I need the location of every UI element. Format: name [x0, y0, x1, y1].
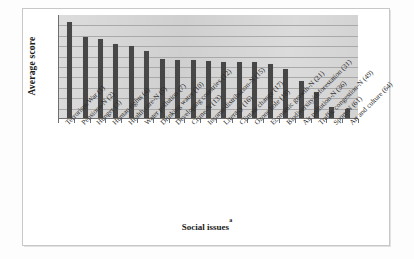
bar-slot [62, 15, 77, 118]
bar [67, 22, 72, 118]
x-axis-title: Social issuesa [0, 221, 414, 232]
figure-container: Average score (1) Terrorism/War(2) Pensi… [0, 0, 414, 259]
x-axis-tick [58, 119, 59, 123]
x-axis-title-text: Social issues [182, 222, 229, 232]
y-axis-title-text: Average score [27, 37, 37, 96]
y-axis-title: Average score [24, 18, 40, 114]
x-axis-title-footnote-marker: a [229, 217, 232, 223]
